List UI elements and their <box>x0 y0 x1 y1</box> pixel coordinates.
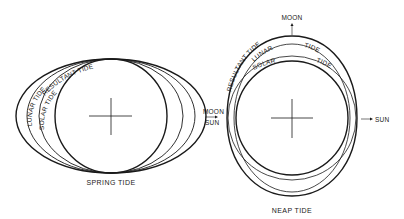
spring-center-cross <box>89 98 132 135</box>
neap-sun-direction: SUN <box>361 116 389 123</box>
neap-sun-label: SUN <box>375 116 389 123</box>
neap-moon-arrowhead-icon <box>291 23 294 26</box>
neap-tide-caption: NEAP TIDE <box>272 207 312 214</box>
spring-moon-sun-direction: MOON SUN <box>203 108 224 126</box>
spring-tide-figure: RESULTANT TIDE LUNAR TIDE SOLAR TIDE MOO… <box>16 59 224 186</box>
neap-sun-arrowhead-icon <box>370 118 373 121</box>
spring-sun-label: SUN <box>205 119 219 126</box>
neap-moon-direction: MOON <box>281 14 302 35</box>
neap-moon-label: MOON <box>281 14 302 21</box>
tide-diagram: RESULTANT TIDE LUNAR TIDE SOLAR TIDE MOO… <box>0 0 404 219</box>
spring-tide-caption: SPRING TIDE <box>86 179 135 186</box>
neap-tide-figure: RESULTANT TIDE LUNAR TIDE SOLAR TIDE MOO… <box>225 14 389 214</box>
spring-moon-label: MOON <box>203 108 224 115</box>
neap-center-cross <box>271 99 313 138</box>
